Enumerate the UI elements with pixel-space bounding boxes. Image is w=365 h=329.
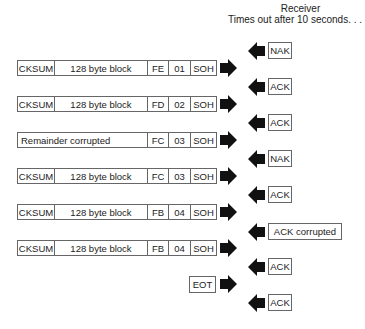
- data-block-field: 128 byte block: [55, 205, 148, 219]
- response-nak: NAK: [268, 42, 292, 59]
- eot-packet: EOT: [189, 276, 216, 293]
- block-number-field: 01: [169, 61, 191, 75]
- timeout-label: Times out after 10 seconds. . .: [225, 14, 365, 25]
- arrow-left-icon: [248, 258, 265, 276]
- cksum-field: CKSUM: [18, 97, 55, 111]
- receiver-label: Receiver: [240, 3, 361, 14]
- block-number-field: 02: [169, 97, 191, 111]
- arrow-right-icon: [220, 275, 237, 293]
- response-ack: ACK: [268, 294, 292, 311]
- arrow-right-icon: [220, 131, 237, 149]
- arrow-left-icon: [248, 294, 265, 312]
- arrow-right-icon: [220, 239, 237, 257]
- arrow-right-icon: [220, 59, 237, 77]
- arrow-left-icon: [248, 78, 265, 96]
- response-ack: ACK: [268, 186, 292, 203]
- response-ack: ACK: [268, 114, 292, 131]
- data-block-field: 128 byte block: [55, 61, 148, 75]
- complement-field: FD: [148, 97, 169, 111]
- cksum-field: CKSUM: [18, 61, 55, 75]
- complement-field: FB: [148, 205, 169, 219]
- arrow-right-icon: [220, 167, 237, 185]
- arrow-left-icon: [248, 223, 265, 241]
- packet-3-corrupted: Remainder corrupted FC 03 SOH: [17, 132, 217, 148]
- arrow-left-icon: [248, 150, 265, 168]
- packet-6: CKSUM 128 byte block FB 04 SOH: [17, 240, 217, 256]
- complement-field: FB: [148, 241, 169, 255]
- complement-field: FC: [148, 169, 169, 183]
- remainder-corrupted-field: Remainder corrupted: [18, 133, 148, 147]
- receiver-title: Receiver: [240, 3, 361, 14]
- block-number-field: 04: [169, 241, 191, 255]
- arrow-right-icon: [220, 95, 237, 113]
- packet-4: CKSUM 128 byte block FC 03 SOH: [17, 168, 217, 184]
- soh-field: SOH: [191, 97, 216, 111]
- block-number-field: 03: [169, 169, 191, 183]
- soh-field: SOH: [191, 61, 216, 75]
- packet-1: CKSUM 128 byte block FE 01 SOH: [17, 60, 217, 76]
- complement-field: FE: [148, 61, 169, 75]
- cksum-field: CKSUM: [18, 169, 55, 183]
- arrow-left-icon: [248, 114, 265, 132]
- response-ack: ACK: [268, 258, 292, 275]
- soh-field: SOH: [191, 169, 216, 183]
- arrow-left-icon: [248, 186, 265, 204]
- packet-2: CKSUM 128 byte block FD 02 SOH: [17, 96, 217, 112]
- data-block-field: 128 byte block: [55, 169, 148, 183]
- data-block-field: 128 byte block: [55, 241, 148, 255]
- soh-field: SOH: [191, 205, 216, 219]
- packet-5: CKSUM 128 byte block FB 04 SOH: [17, 204, 217, 220]
- block-number-field: 03: [169, 133, 191, 147]
- response-ack: ACK: [268, 78, 292, 95]
- soh-field: SOH: [191, 133, 216, 147]
- response-nak: NAK: [268, 150, 292, 167]
- cksum-field: CKSUM: [18, 205, 55, 219]
- complement-field: FC: [148, 133, 169, 147]
- soh-field: SOH: [191, 241, 216, 255]
- arrow-right-icon: [220, 203, 237, 221]
- response-ack-corrupted: ACK corrupted: [268, 223, 342, 240]
- cksum-field: CKSUM: [18, 241, 55, 255]
- data-block-field: 128 byte block: [55, 97, 148, 111]
- block-number-field: 04: [169, 205, 191, 219]
- arrow-left-icon: [248, 42, 265, 60]
